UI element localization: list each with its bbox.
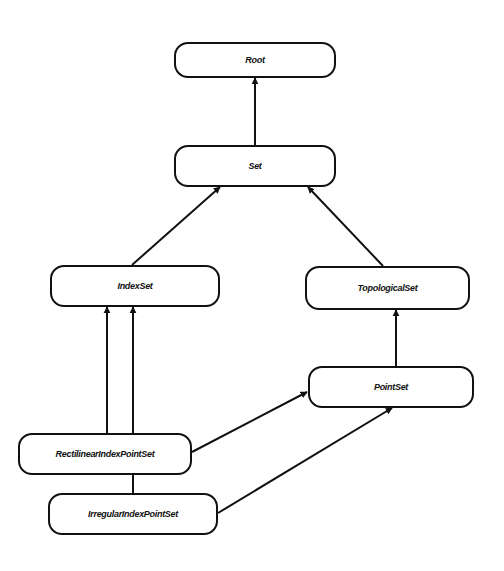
edge-indexset-to-set	[132, 187, 220, 265]
node-pointset: PointSet	[308, 366, 474, 408]
node-topologicalset-label: TopologicalSet	[358, 283, 418, 293]
node-root: Root	[174, 42, 336, 78]
node-irregular: IrregularIndexPointSet	[48, 493, 218, 535]
node-root-label: Root	[245, 55, 264, 65]
edge-topologicalset-to-set	[308, 187, 383, 266]
node-set: Set	[174, 145, 336, 187]
node-irregular-label: IrregularIndexPointSet	[88, 509, 178, 519]
node-indexset-label: IndexSet	[117, 281, 152, 291]
edge-rectilinear-to-pointset	[192, 392, 307, 452]
node-set-label: Set	[248, 161, 261, 171]
node-rectilinear-label: RectilinearIndexPointSet	[56, 449, 155, 459]
node-rectilinear: RectilinearIndexPointSet	[18, 433, 192, 475]
node-indexset: IndexSet	[50, 265, 220, 307]
node-topologicalset: TopologicalSet	[305, 266, 470, 310]
node-pointset-label: PointSet	[374, 382, 408, 392]
